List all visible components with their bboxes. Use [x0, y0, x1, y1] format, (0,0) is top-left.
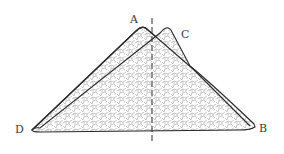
- diagram-canvas: [0, 0, 284, 154]
- folded-shape-diagram: A C D B: [0, 0, 284, 154]
- label-c: C: [181, 29, 189, 40]
- label-d: D: [15, 124, 24, 135]
- label-b: B: [259, 123, 267, 134]
- label-a: A: [130, 14, 138, 25]
